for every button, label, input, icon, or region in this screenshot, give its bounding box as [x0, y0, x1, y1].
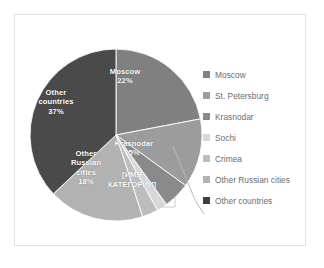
legend-swatch-icon	[203, 113, 210, 120]
legend-item[interactable]: Krasnodar	[203, 106, 315, 127]
slice-label-other-countries: Other countries 37%	[26, 88, 86, 116]
legend-item-label: Other Russian cities	[215, 175, 290, 185]
chart-legend: MoscowSt. PetersburgKrasnodarSochiCrimea…	[203, 64, 315, 211]
slice-label-moscow: Moscow 22%	[97, 67, 153, 86]
legend-item-label: Moscow	[215, 70, 246, 80]
slice-label-other-russian-cities-name2: Russian	[60, 158, 112, 167]
slice-label-krasnodar: Krasnodar 5%	[105, 139, 163, 158]
slice-label-krasnodar-value: 5%	[105, 148, 163, 157]
pie-svg	[18, 32, 198, 232]
slice-label-moscow-name: Moscow	[97, 67, 153, 76]
slice-label-category-placeholder: [ИМЯ КАТЕГОРИИ]	[102, 170, 162, 189]
slice-label-other-countries-name1: Other	[26, 88, 86, 97]
legend-item-label: Crimea	[215, 154, 242, 164]
legend-item[interactable]: St. Petersburg	[203, 85, 315, 106]
legend-item-label: Krasnodar	[215, 112, 254, 122]
legend-swatch-icon	[203, 71, 210, 78]
slice-label-other-countries-value: 37%	[26, 107, 86, 116]
legend-swatch-icon	[203, 92, 210, 99]
legend-item[interactable]: Other Russian cities	[203, 169, 315, 190]
slice-label-moscow-value: 22%	[97, 76, 153, 85]
legend-swatch-icon	[203, 176, 210, 183]
pie-area: Moscow 22% Other countries 37% Other Rus…	[18, 32, 198, 232]
pie-chart-figure: Moscow 22% Other countries 37% Other Rus…	[0, 0, 324, 268]
slice-label-other-countries-name2: countries	[26, 97, 86, 106]
legend-item[interactable]: Other countries	[203, 190, 315, 211]
slice-label-placeholder-line2: КАТЕГОРИИ]	[102, 180, 162, 190]
legend-swatch-icon	[203, 155, 210, 162]
legend-item-label: Sochi	[215, 133, 236, 143]
legend-item-label: Other countries	[215, 196, 272, 206]
legend-item[interactable]: Crimea	[203, 148, 315, 169]
legend-swatch-icon	[203, 134, 210, 141]
legend-item-label: St. Petersburg	[215, 91, 269, 101]
legend-swatch-icon	[203, 197, 210, 204]
slice-label-krasnodar-name: Krasnodar	[105, 139, 163, 148]
legend-item[interactable]: Sochi	[203, 127, 315, 148]
legend-item[interactable]: Moscow	[203, 64, 315, 85]
slice-label-placeholder-line1: [ИМЯ	[102, 170, 162, 180]
